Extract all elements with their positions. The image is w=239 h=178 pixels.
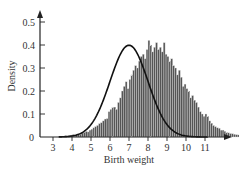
histogram-bar	[192, 96, 194, 137]
histogram-bar	[197, 107, 199, 137]
y-axis-arrow-icon	[37, 10, 43, 18]
histogram-bar	[93, 128, 95, 137]
histogram-bar	[91, 129, 93, 137]
histogram-bar	[182, 86, 184, 137]
histogram-bar	[101, 123, 103, 137]
histogram-bar	[137, 68, 139, 137]
histogram-bar	[112, 107, 114, 137]
y-tick-label: 0	[29, 132, 34, 143]
histogram-bar	[139, 61, 141, 137]
histogram-bar	[222, 130, 224, 137]
histogram-bar	[213, 126, 215, 138]
histogram-bar	[85, 131, 87, 137]
histogram-bar	[169, 61, 171, 137]
histogram-bar	[110, 109, 112, 137]
histogram-bar	[171, 59, 173, 137]
histogram-bar	[129, 80, 131, 138]
histogram-bar	[173, 66, 175, 137]
x-tick-label: 5	[89, 142, 94, 153]
histogram-bar	[235, 135, 237, 137]
histogram-bar	[97, 126, 99, 138]
histogram-bar	[116, 109, 118, 137]
histogram-bar	[196, 103, 198, 138]
histogram-bar	[104, 119, 106, 137]
histogram-bar	[199, 112, 201, 137]
histogram-bar	[184, 84, 186, 137]
x-ticks: 34567891011	[51, 137, 210, 153]
histogram-bar	[83, 132, 85, 137]
histogram-bar	[159, 47, 161, 137]
histogram-bar	[194, 100, 196, 137]
histogram-bar	[175, 68, 177, 137]
y-tick-label: 0.4	[23, 40, 36, 51]
x-tick-label: 6	[108, 142, 113, 153]
histogram-bar	[232, 134, 234, 137]
histogram-bar	[99, 124, 101, 137]
histogram-bar	[140, 57, 142, 138]
histogram-bar	[220, 130, 222, 137]
histogram-bar	[205, 114, 207, 137]
histogram-bar	[127, 89, 129, 137]
y-tick-label: 0.1	[23, 109, 36, 120]
histogram-bar	[102, 121, 104, 137]
x-tick-label: 3	[51, 142, 56, 153]
x-tick-label: 8	[146, 142, 151, 153]
histogram-bar	[156, 43, 158, 137]
histogram-bar	[178, 70, 180, 137]
histogram-chart: 34567891011 00.10.20.30.40.5 Birth weigh…	[0, 0, 239, 178]
histogram-bar	[148, 40, 150, 137]
histogram-bar	[89, 130, 91, 137]
histogram-bar	[188, 91, 190, 137]
histogram-bar	[87, 132, 89, 137]
histogram-bar	[158, 50, 160, 137]
histogram-bar	[203, 116, 205, 137]
x-tick-label: 10	[181, 142, 191, 153]
histogram-bar	[177, 75, 179, 137]
x-tick-label: 7	[127, 142, 132, 153]
histogram-bar	[215, 127, 217, 137]
histogram-bar	[209, 121, 211, 137]
histogram-bar	[95, 127, 97, 137]
histogram-bar	[131, 75, 133, 137]
histogram-bar	[161, 52, 163, 137]
x-axis-label: Birth weight	[104, 154, 154, 165]
histogram-bar	[201, 114, 203, 137]
y-ticks: 00.10.20.30.40.5	[23, 17, 46, 143]
histogram-bar	[218, 128, 220, 137]
histogram-bar	[207, 116, 209, 137]
histogram-bar	[120, 98, 122, 137]
histogram-bar	[135, 66, 137, 137]
x-tick-label: 9	[165, 142, 170, 153]
histogram-bar	[186, 89, 188, 137]
histogram-bar	[133, 70, 135, 137]
y-tick-label: 0.3	[23, 63, 36, 74]
histogram-bar	[118, 103, 120, 138]
histogram-bar	[114, 107, 116, 137]
histogram-bar	[123, 86, 125, 137]
x-tick-label: 11	[200, 142, 210, 153]
histogram-bar	[234, 134, 236, 137]
histogram-bar	[125, 82, 127, 137]
histogram-bar	[146, 50, 148, 137]
histogram-bars	[64, 40, 239, 137]
histogram-bar	[180, 77, 182, 137]
histogram-bar	[154, 47, 156, 137]
histogram-bar	[237, 135, 239, 137]
histogram-bar	[216, 128, 218, 137]
histogram-bar	[108, 112, 110, 137]
histogram-bar	[121, 91, 123, 137]
x-tick-label: 4	[70, 142, 75, 153]
histogram-bar	[211, 123, 213, 137]
y-tick-label: 0.2	[23, 86, 36, 97]
y-axis-label: Density	[6, 60, 17, 91]
y-tick-label: 0.5	[23, 17, 36, 28]
histogram-bar	[106, 119, 108, 137]
histogram-bar	[190, 98, 192, 137]
